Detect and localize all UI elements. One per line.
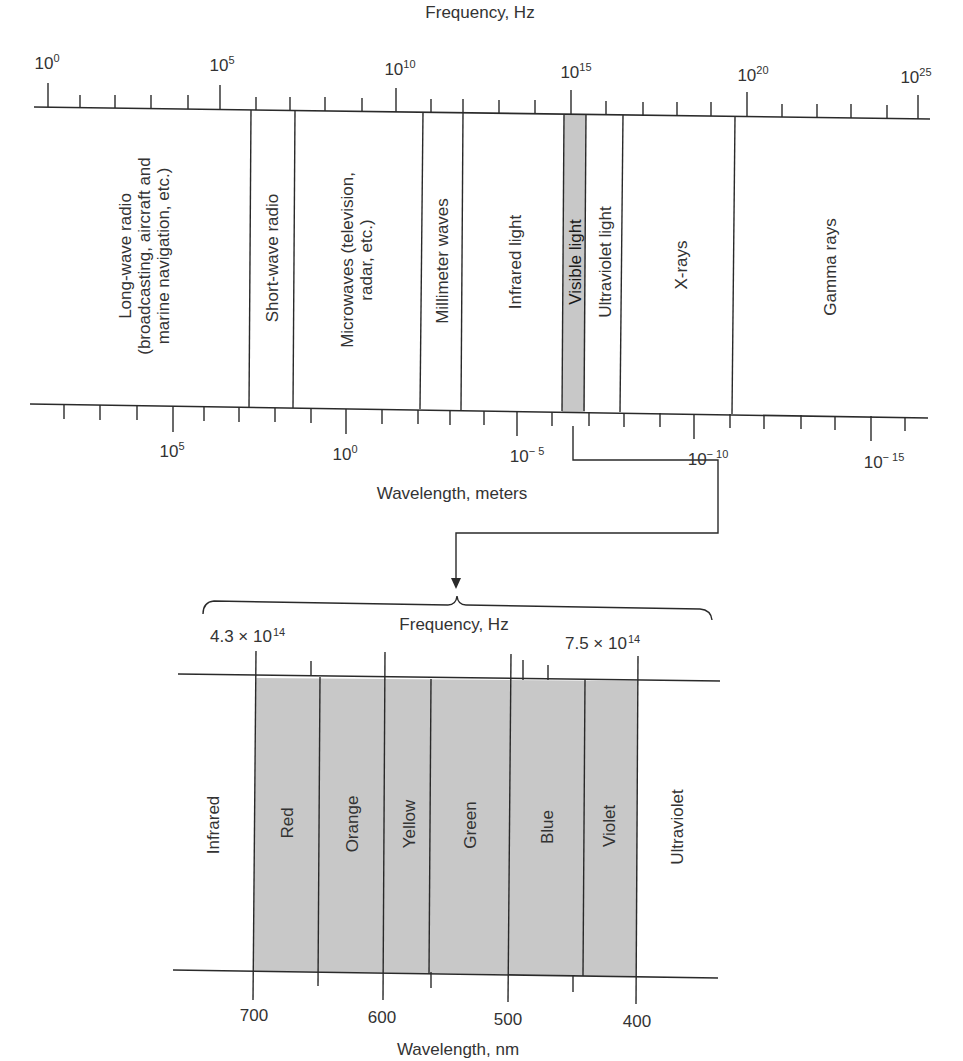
frequency-tick-label: 1015 xyxy=(560,61,591,83)
wavelength-tick-label: 100 xyxy=(332,443,357,465)
detail-label-ultraviolet: Ultraviolet xyxy=(668,789,687,865)
frequency-axis-title: Frequency, Hz xyxy=(425,3,534,23)
detail-band-yellow: Yellow xyxy=(400,800,419,849)
wavelength-axis-title: Wavelength, meters xyxy=(377,484,528,504)
detail-frequency-right-value: 7.5 × 1014 xyxy=(565,634,640,652)
band-label-long-wave-radio: Long-wave radio (broadcasting, aircraft … xyxy=(116,157,173,355)
detail-label-infrared: Infrared xyxy=(204,796,223,855)
frequency-tick-label: 105 xyxy=(209,54,234,76)
detail-band-violet: Violet xyxy=(600,805,619,847)
band-label-visible-light: Visible light xyxy=(566,219,585,305)
frequency-tick-label: 1010 xyxy=(384,58,415,80)
wavelength-tick-label: Frequency, Hz105 xyxy=(159,440,184,462)
detail-wavelength-tick-label: 700 xyxy=(240,1006,268,1026)
wavelength-tick-label: 10− 10 xyxy=(688,448,729,470)
arrow-head-icon xyxy=(451,578,461,589)
band-label-microwaves: Microwaves (television, radar, etc.) xyxy=(338,172,376,348)
detail-band-blue: Blue xyxy=(538,810,557,844)
wavelength-axis-line xyxy=(30,404,928,418)
detail-frequency-left-value: 4.3 × 1014 xyxy=(210,627,285,645)
frequency-tick-label: 1025 xyxy=(900,66,931,88)
detail-wavelength-axis-title: Wavelength, nm xyxy=(397,1040,519,1060)
detail-wavelength-tick-label: 600 xyxy=(368,1008,396,1028)
detail-frequency-axis-title: Frequency, Hz xyxy=(399,615,508,635)
band-label-ultraviolet-light: Ultraviolet light xyxy=(596,206,615,318)
detail-band-green: Green xyxy=(461,801,480,848)
frequency-tick-label: 100 xyxy=(34,52,59,74)
detail-wavelength-tick-label: 500 xyxy=(494,1010,522,1030)
band-label-millimeter-waves: Millimeter waves xyxy=(433,198,452,324)
frequency-axis-line xyxy=(34,107,930,119)
band-label-gamma-rays: Gamma rays xyxy=(821,218,840,315)
detail-band-red: Red xyxy=(278,807,297,838)
band-label-short-wave-radio: Short-wave radio xyxy=(263,194,282,323)
wavelength-tick-label: 10− 5 xyxy=(510,445,545,467)
band-dividers xyxy=(249,110,735,414)
band-label-x-rays: X-rays xyxy=(672,240,691,289)
detail-band-orange: Orange xyxy=(343,796,362,853)
wavelength-tick-label: 10− 15 xyxy=(864,451,905,473)
frequency-tick-label: 1020 xyxy=(737,64,768,86)
band-label-infrared-light: Infrared light xyxy=(506,215,525,310)
detail-wavelength-tick-label: 400 xyxy=(623,1012,651,1032)
visible-detail-fill xyxy=(253,678,638,976)
